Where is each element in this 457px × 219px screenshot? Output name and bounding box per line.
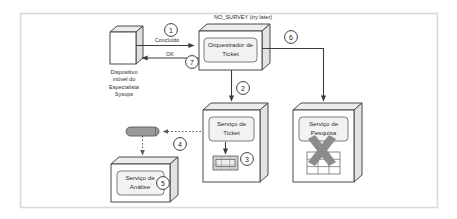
analysis-service-label-line-1: Serviço de: [125, 174, 155, 181]
ticket-service-label-line-1: Serviço de: [217, 120, 247, 127]
survey-service-label-line-1: Serviço de: [309, 120, 339, 127]
badge-7-number: 7: [190, 59, 194, 66]
badge-2[interactable]: 2: [237, 82, 250, 95]
edge-concluido-label: Concluído: [155, 37, 179, 43]
message-queue-pill: [126, 127, 159, 136]
ticket-orchestrator-label-line-2: Ticket: [222, 50, 239, 57]
architecture-flow-diagram: NO_SURVEY (try later) Dispositivo móvel …: [0, 0, 457, 219]
node-ticket-service[interactable]: Serviço de Ticket: [203, 103, 268, 182]
badge-5[interactable]: 5: [157, 177, 170, 190]
badge-5-number: 5: [161, 180, 165, 187]
badge-6[interactable]: 6: [285, 31, 298, 44]
edge-ok-label: OK: [166, 51, 174, 57]
diagram-root: NO_SURVEY (try later) Dispositivo móvel …: [0, 0, 457, 219]
badge-3[interactable]: 3: [241, 153, 254, 166]
ticket-orchestrator-top-face: [199, 24, 270, 31]
survey-service-side-face: [354, 103, 362, 182]
status-label-no-survey: NO_SURVEY (try later): [214, 14, 272, 20]
node-message-queue[interactable]: [126, 127, 159, 136]
ticket-service-label-line-2: Ticket: [223, 129, 240, 136]
node-ticket-orchestrator[interactable]: Orquestrador de Ticket: [199, 24, 270, 70]
mobile-device-caption-line-2: móvel do: [113, 76, 136, 82]
ticket-orchestrator-label-line-1: Orquestrador de: [208, 41, 254, 48]
mobile-device-caption-line-1: Dispositivo: [110, 69, 137, 75]
survey-service-label-line-2: Pesquisa: [311, 129, 337, 136]
ticket-orchestrator-side-face: [262, 24, 270, 70]
analysis-service-label-line-2: Análise: [130, 183, 151, 190]
badge-7[interactable]: 7: [186, 56, 199, 69]
ticket-service-top-face: [203, 103, 268, 110]
badge-1-number: 1: [169, 27, 173, 34]
analysis-service-top-face: [111, 157, 178, 164]
mobile-device-caption-line-4: Sysops: [115, 91, 134, 97]
ticket-service-side-face: [260, 103, 268, 182]
database-table-icon: [213, 156, 238, 170]
badge-3-number: 3: [245, 156, 249, 163]
badge-4[interactable]: 4: [174, 138, 187, 151]
mobile-device-caption-line-3: Especialista: [109, 84, 140, 90]
analysis-service-side-face: [170, 157, 178, 202]
survey-service-top-face: [293, 103, 362, 110]
badge-2-number: 2: [241, 85, 245, 92]
badge-6-number: 6: [289, 34, 293, 41]
node-survey-service[interactable]: Serviço de Pesquisa: [293, 103, 362, 182]
mobile-device-front-face: [110, 32, 136, 64]
badge-4-number: 4: [178, 141, 182, 148]
badge-1[interactable]: 1: [165, 24, 178, 37]
